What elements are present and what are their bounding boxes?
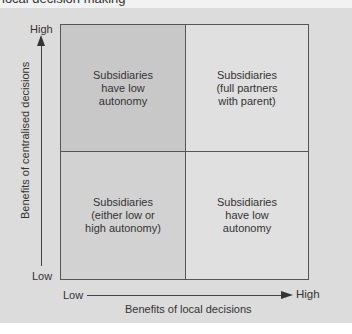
quadrant-line: Subsidiaries	[73, 196, 173, 209]
quadrant-line: autonomy	[73, 95, 173, 108]
quadrant-line: autonomy	[197, 222, 297, 235]
y-axis-title: Benefits of centralised decisions	[19, 79, 31, 219]
quadrant-line: (either low or	[73, 209, 173, 222]
arrow-right-icon	[281, 291, 293, 299]
quadrant-top-left: Subsidiaries have low autonomy	[60, 24, 186, 152]
y-axis-high-label: High	[30, 23, 53, 35]
quadrant-text: Subsidiaries have low autonomy	[73, 69, 173, 108]
quadrant-line: Subsidiaries	[197, 196, 297, 209]
quadrant-line: (full partners	[197, 82, 297, 95]
figure-title: local decision making	[2, 0, 126, 6]
quadrant-top-right: Subsidiaries (full partners with parent)	[185, 24, 309, 152]
quadrant-bottom-left: Subsidiaries (either low or high autonom…	[60, 151, 186, 280]
quadrant-bottom-right: Subsidiaries have low autonomy	[185, 151, 309, 280]
y-axis-low-label: Low	[32, 270, 52, 282]
header-strip: local decision making	[0, 0, 352, 8]
x-axis-high-label: High	[296, 288, 320, 300]
quadrant-line: Subsidiaries	[73, 69, 173, 82]
quadrant-line: have low	[197, 209, 297, 222]
quadrant-line: high autonomy)	[73, 222, 173, 235]
quadrant-line: with parent)	[197, 95, 297, 108]
quadrant-text: Subsidiaries (either low or high autonom…	[73, 196, 173, 235]
quadrant-text: Subsidiaries have low autonomy	[197, 196, 297, 235]
x-axis-line	[87, 295, 283, 296]
quadrant-text: Subsidiaries (full partners with parent)	[197, 69, 297, 108]
x-axis-title: Benefits of local decisions	[125, 303, 252, 315]
arrow-up-icon	[37, 35, 45, 46]
quadrant-line: Subsidiaries	[197, 69, 297, 82]
quadrant-line: have low	[73, 82, 173, 95]
x-axis-low-label: Low	[63, 289, 83, 301]
y-axis-line	[41, 44, 42, 266]
